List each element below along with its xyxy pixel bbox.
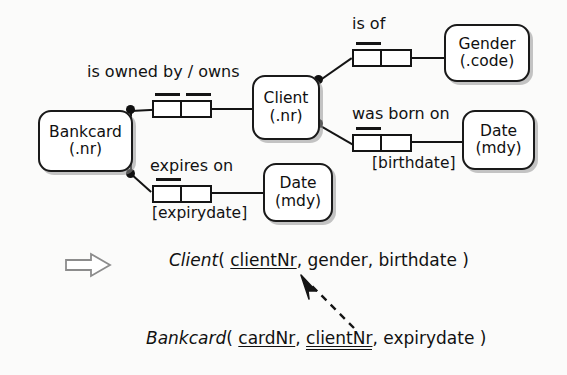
schema-bankcard-close-paren: ) (480, 328, 487, 348)
maps-to-block-right-arrow (64, 252, 112, 278)
role-box-isof-2[interactable] (382, 51, 410, 65)
entity-date-birthdate[interactable]: Date (mdy) (462, 110, 535, 170)
schema-client-relation-name: Client (169, 250, 218, 270)
uniqueness-bar-bornon-role1 (356, 127, 381, 130)
connector-owns-to-client (210, 108, 254, 110)
role-box-expires-1[interactable] (154, 187, 182, 201)
entity-date-birthdate-refmode: (mdy) (475, 140, 521, 157)
role-note-birthdate: [birthdate] (372, 156, 455, 172)
schema-client-attr-birthdate: birthdate (379, 250, 457, 270)
schema-bankcard-relation-name: Bankcard (146, 328, 226, 348)
foreign-key-reference-dashed-arrow (292, 272, 368, 334)
predicate-label-is-owned-by-owns: is owned by / owns (87, 64, 240, 80)
predicate-box-was-born-on[interactable] (352, 134, 412, 152)
schema-client-comma-1: , (297, 250, 302, 270)
connector-isof-to-gender (410, 57, 446, 59)
schema-client-close-paren: ) (462, 250, 469, 270)
schema-client-comma-2: , (368, 250, 373, 270)
schema-bankcard-attr-cardnr: cardNr (238, 328, 295, 348)
predicate-label-was-born-on: was born on (352, 106, 450, 122)
predicate-label-is-of: is of (352, 16, 385, 32)
schema-bankcard-comma-1: , (295, 328, 300, 348)
entity-date-birthdate-name: Date (480, 123, 517, 140)
connector-client-to-isof (318, 57, 352, 82)
entity-date-expirydate-refmode: (mdy) (275, 193, 321, 210)
role-connector-dot-bankcard-expires (126, 169, 135, 178)
schema-line-bankcard: Bankcard( cardNr, clientNr, expirydate ) (146, 330, 486, 347)
entity-gender-name: Gender (458, 36, 515, 53)
schema-bankcard-attr-expirydate: expirydate (383, 328, 474, 348)
schema-client-attr-gender: gender (307, 250, 367, 270)
predicate-label-expires-on: expires on (150, 158, 233, 174)
connector-bornon-to-date (411, 141, 464, 143)
uniqueness-bar-expires-role1 (156, 178, 181, 181)
entity-date-expirydate[interactable]: Date (mdy) (263, 163, 333, 222)
schema-bankcard-comma-2: , (372, 328, 377, 348)
entity-date-expirydate-name: Date (279, 175, 316, 192)
schema-line-client: Client( clientNr, gender, birthdate ) (169, 252, 469, 269)
predicate-box-is-owned-by-owns[interactable] (152, 100, 212, 118)
role-box-bornon-1[interactable] (354, 136, 382, 150)
entity-client[interactable]: Client (.nr) (252, 75, 320, 140)
entity-bankcard-name: Bankcard (49, 124, 122, 141)
role-box-isof-1[interactable] (354, 51, 382, 65)
predicate-box-expires-on[interactable] (152, 185, 212, 203)
entity-client-refmode: (.nr) (269, 108, 302, 125)
entity-gender[interactable]: Gender (.code) (444, 24, 530, 82)
schema-bankcard-attr-clientnr: clientNr (306, 328, 372, 350)
role-box-bornon-2[interactable] (382, 136, 410, 150)
entity-client-name: Client (264, 90, 309, 107)
role-note-expirydate: [expirydate] (152, 206, 247, 222)
entity-bankcard[interactable]: Bankcard (.nr) (38, 110, 133, 172)
uniqueness-bar-isof-role1 (356, 42, 381, 45)
entity-bankcard-refmode: (.nr) (69, 141, 102, 158)
entity-gender-refmode: (.code) (460, 53, 514, 70)
schema-client-attr-clientnr: clientNr (230, 250, 296, 270)
schema-client-open-paren: ( (218, 250, 225, 270)
connector-client-to-bornon (318, 124, 353, 145)
role-box-expires-2[interactable] (182, 187, 210, 201)
uniqueness-bar-owns-role2 (186, 93, 211, 96)
schema-bankcard-open-paren: ( (226, 328, 233, 348)
uniqueness-bar-owns-role1 (155, 93, 180, 96)
connector-expires-to-date (210, 192, 265, 194)
predicate-box-is-of[interactable] (352, 49, 412, 67)
role-box-owns-1[interactable] (154, 102, 182, 116)
role-box-owns-2[interactable] (182, 102, 210, 116)
orm-diagram-canvas: Bankcard (.nr) Client (.nr) Gender (.cod… (0, 0, 567, 375)
